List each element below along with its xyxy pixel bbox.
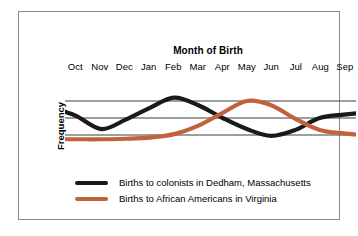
x-tick-label-jan: Jan <box>141 61 156 72</box>
x-axis-tick-labels: OctNovDecJanFebMarAprMayJunJulAugSep <box>63 61 357 75</box>
x-tick-label-mar: Mar <box>190 61 206 72</box>
x-tick-label-jun: Jun <box>264 61 279 72</box>
chart-title: Month of Birth <box>19 45 358 56</box>
plot-area <box>65 84 356 152</box>
x-tick-label-feb: Feb <box>165 61 181 72</box>
x-tick-label-aug: Aug <box>312 61 329 72</box>
legend-label-0: Births to colonists in Dedham, Massachus… <box>119 176 311 190</box>
chart-frame: Month of Birth OctNovDecJanFebMarAprMayJ… <box>18 11 340 220</box>
legend: Births to colonists in Dedham, Massachus… <box>75 176 345 208</box>
x-tick-label-oct: Oct <box>68 61 83 72</box>
x-tick-label-apr: Apr <box>215 61 230 72</box>
chart-title-text: Month of Birth <box>173 45 243 56</box>
legend-item-0[interactable]: Births to colonists in Dedham, Massachus… <box>75 176 345 191</box>
x-tick-label-sep: Sep <box>336 61 353 72</box>
x-tick-label-nov: Nov <box>91 61 108 72</box>
legend-label-1: Births to African Americans in Virginia <box>119 192 277 206</box>
x-tick-label-jul: Jul <box>290 61 302 72</box>
series-line-0 <box>65 98 356 136</box>
plot-svg <box>65 84 356 152</box>
legend-swatch-0 <box>75 181 108 185</box>
x-tick-label-may: May <box>238 61 256 72</box>
legend-item-1[interactable]: Births to African Americans in Virginia <box>75 192 345 207</box>
y-axis-title: Frequency <box>43 90 57 150</box>
legend-swatch-1 <box>75 197 108 201</box>
x-tick-label-dec: Dec <box>116 61 133 72</box>
